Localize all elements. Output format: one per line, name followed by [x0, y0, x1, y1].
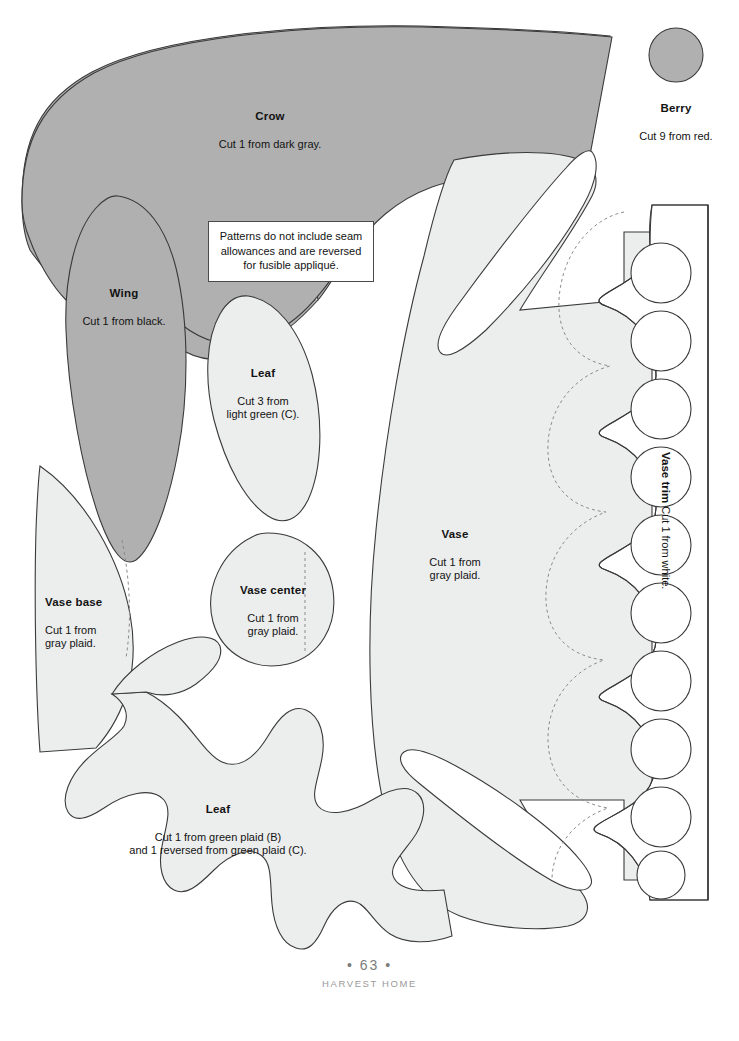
page-marker-left: • — [347, 957, 354, 973]
vase-trim-circle — [631, 651, 691, 711]
vase-center-shape — [211, 533, 334, 666]
vase-trim-circle — [631, 719, 691, 779]
wing-shape — [66, 196, 186, 562]
label-vase-trim-sub: Cut 1 from white. — [660, 506, 672, 589]
vase-trim-circle — [637, 851, 685, 899]
pattern-page: Crow Cut 1 from dark gray. Berry Cut 9 f… — [0, 0, 739, 1041]
vase-trim-circle — [631, 379, 691, 439]
book-title: HARVEST HOME — [0, 978, 739, 989]
label-vase-trim: Vase trim Cut 1 from white. — [660, 452, 672, 622]
vase-trim-circle — [631, 243, 691, 303]
vase-trim-circle — [631, 311, 691, 371]
leaf-small-shape — [208, 296, 320, 521]
page-footer: • 63 • HARVEST HOME — [0, 957, 739, 989]
page-marker-right: • — [385, 957, 392, 973]
berry-shape — [649, 28, 703, 82]
note-line-3: for fusible appliqué. — [243, 259, 338, 271]
note-line-1: Patterns do not include seam — [220, 230, 362, 242]
page-number-line: • 63 • — [0, 957, 739, 973]
vase-trim-circle — [631, 787, 691, 847]
pattern-artwork — [0, 0, 739, 1041]
seam-allowance-note: Patterns do not include seam allowances … — [208, 221, 374, 282]
label-vase-trim-title: Vase trim — [660, 452, 672, 503]
page-number: 63 — [360, 957, 380, 973]
note-line-2: allowances and are reversed — [221, 245, 362, 257]
